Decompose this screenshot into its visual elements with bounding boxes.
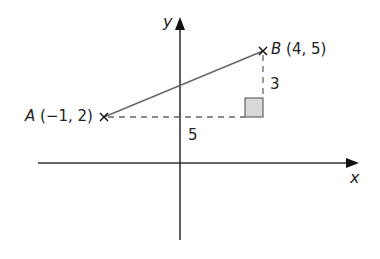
coordinate-diagram: y x A (−1, 2) B (4, 5) 5 3 [0, 0, 380, 259]
right-angle-marker [245, 98, 263, 117]
point-b-cross [259, 47, 267, 55]
point-b-label: B (4, 5) [271, 42, 326, 57]
point-a-label: A (−1, 2) [25, 109, 93, 124]
point-b-name: B [271, 40, 281, 58]
x-axis [38, 158, 359, 168]
y-axis-label: y [163, 14, 172, 30]
point-b-coords: (4, 5) [286, 40, 326, 58]
point-a-cross [100, 113, 108, 121]
x-axis-label: x [350, 170, 359, 186]
point-a-name: A [25, 107, 35, 125]
vertical-leg-length: 3 [270, 77, 280, 92]
horizontal-leg-length: 5 [188, 128, 198, 143]
point-a-coords: (−1, 2) [40, 107, 93, 125]
segment-ab [104, 51, 263, 117]
y-axis [175, 17, 185, 240]
